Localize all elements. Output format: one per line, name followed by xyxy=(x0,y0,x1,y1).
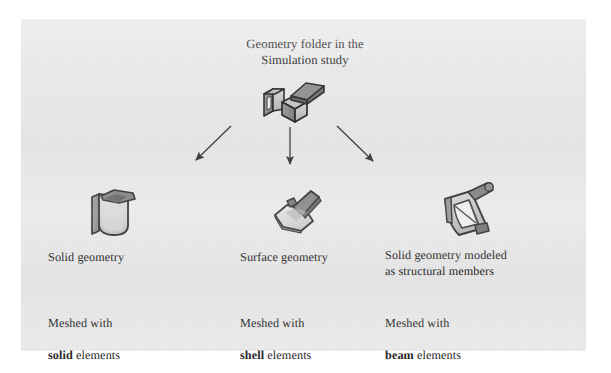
solid-body-folder-icon xyxy=(258,78,330,130)
mesh-suffix: elements xyxy=(414,348,461,362)
arrow-down-right xyxy=(337,126,373,161)
mesh-element-type: solid xyxy=(48,348,73,362)
mesh-suffix: elements xyxy=(73,348,120,362)
figure-panel: Geometry folder in the Simulation study … xyxy=(21,19,586,351)
root-label: Geometry folder in the Simulation study xyxy=(175,36,435,69)
structural-member-icon xyxy=(435,179,505,247)
figure-canvas: Geometry folder in the Simulation study … xyxy=(0,0,611,373)
arrow-down-left xyxy=(196,126,231,160)
mesh-prefix: Meshed with xyxy=(48,316,112,330)
solid-geometry-icon xyxy=(83,183,145,245)
mesh-prefix: Meshed with xyxy=(240,316,304,330)
branch-label-surface: Surface geometry xyxy=(240,250,400,266)
surface-geometry-icon xyxy=(267,185,329,243)
mesh-note-beam: Meshed with beam elements xyxy=(385,300,555,363)
mesh-note-solid: Meshed with solid elements xyxy=(48,300,208,363)
mesh-suffix: elements xyxy=(264,348,311,362)
mesh-note-surface: Meshed with shell elements xyxy=(240,300,400,363)
mesh-element-type: shell xyxy=(240,348,264,362)
branch-label-solid: Solid geometry xyxy=(48,250,198,266)
mesh-prefix: Meshed with xyxy=(385,316,449,330)
mesh-element-type: beam xyxy=(385,348,414,362)
branch-label-beam: Solid geometry modeled as structural mem… xyxy=(385,248,575,280)
